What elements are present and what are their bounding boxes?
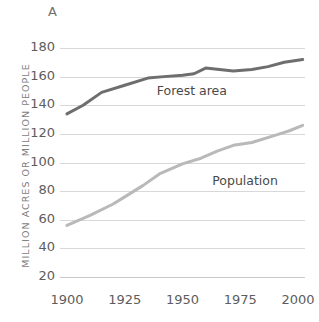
chart-figure: A MILLION ACRES OR MILLION PEOPLE 180160… (0, 0, 319, 322)
gridline (60, 277, 305, 278)
x-tick-label: 1925 (95, 292, 155, 307)
y-tick-label: 180 (7, 39, 55, 54)
x-tick-label: 1950 (153, 292, 213, 307)
y-tick-label: 160 (7, 68, 55, 83)
y-tick-label: 20 (7, 268, 55, 283)
x-tick-label: 1975 (210, 292, 270, 307)
panel-label: A (48, 4, 57, 19)
y-axis-tick-labels: 18016014012010080604020 (0, 48, 55, 277)
x-axis-tick-labels: 19001925195019752000 (60, 292, 305, 312)
y-tick-label: 40 (7, 239, 55, 254)
x-tick-label: 2000 (268, 292, 319, 307)
plot-area: Forest areaPopulation (60, 48, 305, 277)
y-tick-label: 60 (7, 211, 55, 226)
y-tick-label: 100 (7, 154, 55, 169)
y-tick-label: 80 (7, 182, 55, 197)
series-label: Population (210, 173, 280, 188)
y-tick-label: 120 (7, 125, 55, 140)
series-label: Forest area (155, 83, 229, 98)
y-tick-label: 140 (7, 96, 55, 111)
x-tick-label: 1900 (37, 292, 97, 307)
